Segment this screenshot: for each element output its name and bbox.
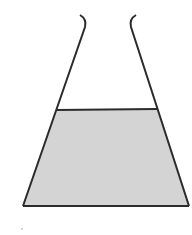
conical-flask-diagram (0, 0, 192, 235)
liquid-surface-line (56, 109, 157, 110)
stray-dot (21, 228, 22, 229)
liquid-fill (23, 109, 189, 206)
